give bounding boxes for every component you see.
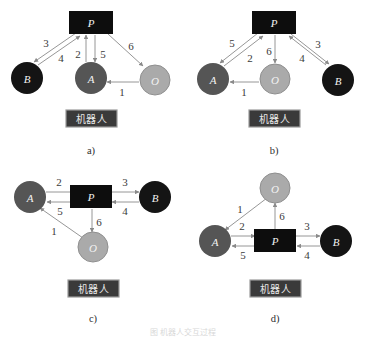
panel-a: P B A O 3 4 2 5 6 1 机器人 a) — [0, 0, 183, 168]
edge-label-6: 6 — [279, 210, 285, 222]
edge-label-6: 6 — [96, 216, 102, 228]
panel-c-caption: c) — [89, 313, 98, 325]
node-O-label: O — [89, 242, 97, 254]
panel-b: P A O B 5 2 6 3 4 1 机器人 b) — [183, 0, 366, 168]
node-B-label: B — [152, 192, 159, 204]
edge-label-4: 4 — [58, 52, 64, 64]
edge-label-2: 2 — [56, 176, 62, 188]
node-B-label: B — [24, 73, 31, 85]
edge-label-1: 1 — [51, 225, 57, 237]
node-A-label: A — [87, 73, 95, 85]
edge-label-4: 4 — [299, 52, 305, 64]
node-B-label: B — [335, 75, 342, 87]
edge-label-4: 4 — [122, 205, 128, 217]
robot-box-label: 机器人 — [76, 113, 108, 125]
node-P-label: P — [271, 235, 279, 247]
edge-label-3: 3 — [315, 38, 321, 50]
edge-P-to-B — [34, 33, 76, 62]
edge-label-1: 1 — [237, 203, 243, 215]
edge-label-5: 5 — [240, 249, 246, 261]
node-A-label: A — [209, 74, 217, 86]
node-P-label: P — [270, 17, 278, 29]
edge-label-5: 5 — [229, 37, 235, 49]
panel-b-caption: b) — [270, 145, 279, 157]
edge-label-4: 4 — [304, 249, 310, 261]
edge-label-3: 3 — [122, 176, 128, 188]
panel-a-caption: a) — [87, 145, 96, 157]
panel-d: O A P B 1 6 2 5 3 4 机器人 d) — [183, 168, 366, 336]
node-A-label: A — [26, 192, 34, 204]
node-P-label: P — [87, 191, 95, 203]
panel-c: A P B O 2 5 3 4 6 1 机器人 c) — [0, 168, 183, 336]
edge-label-6: 6 — [266, 45, 272, 57]
edge-label-1: 1 — [241, 86, 247, 98]
edge-label-2: 2 — [247, 52, 253, 64]
edge-label-2: 2 — [75, 48, 81, 60]
edge-label-2: 2 — [239, 220, 245, 232]
node-P-label: P — [87, 17, 95, 29]
edge-label-5: 5 — [57, 205, 63, 217]
node-O-label: O — [151, 75, 159, 87]
edge-P-to-B — [291, 34, 329, 64]
figure-container: P B A O 3 4 2 5 6 1 机器人 a) — [0, 0, 366, 337]
robot-box-label: 机器人 — [260, 283, 292, 295]
node-A-label: A — [211, 236, 219, 248]
node-O-label: O — [271, 183, 279, 195]
edge-label-3: 3 — [304, 220, 310, 232]
robot-box-label: 机器人 — [78, 283, 110, 295]
edge-P-to-O — [108, 34, 143, 66]
panel-d-caption: d) — [271, 313, 280, 325]
node-O-label: O — [271, 74, 279, 86]
figure-caption: 图 机器人交互过程 — [0, 326, 366, 337]
edge-label-5: 5 — [100, 48, 106, 60]
edge-O-to-A — [225, 198, 267, 230]
edge-label-6: 6 — [128, 40, 134, 52]
node-B-label: B — [333, 236, 340, 248]
robot-box-label: 机器人 — [259, 113, 291, 125]
edge-label-3: 3 — [43, 37, 49, 49]
edge-label-1: 1 — [119, 86, 125, 98]
